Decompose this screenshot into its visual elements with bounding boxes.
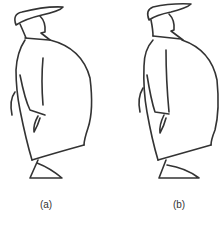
figure-b (111, 0, 223, 200)
figure-b-drawing (111, 0, 223, 200)
figure-b-label: (b) (159, 199, 199, 210)
figure-a-label: (a) (26, 199, 66, 210)
figure-a (0, 0, 112, 200)
figure-a-drawing (0, 0, 112, 200)
